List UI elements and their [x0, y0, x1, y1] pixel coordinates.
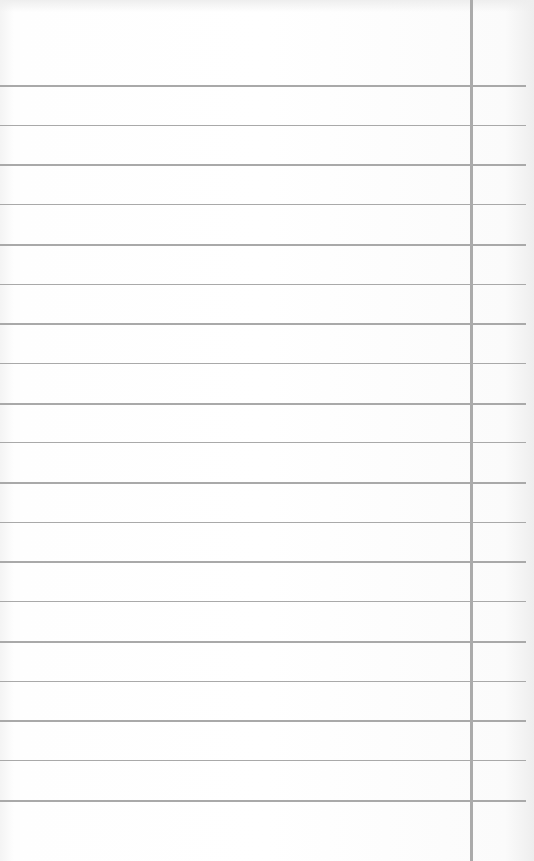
- lined-paper: [0, 0, 534, 861]
- ruled-line: [0, 800, 526, 802]
- ruled-line: [0, 720, 526, 722]
- ruled-line: [0, 601, 526, 602]
- ruled-line: [0, 363, 526, 364]
- ruled-line: [0, 284, 526, 285]
- top-shadow: [0, 0, 534, 12]
- ruled-line: [0, 125, 526, 126]
- ruled-line: [0, 403, 526, 405]
- ruled-line: [0, 522, 526, 523]
- ruled-line: [0, 681, 526, 682]
- margin-line: [470, 0, 473, 861]
- ruled-line: [0, 641, 526, 643]
- ruled-line: [0, 204, 526, 205]
- ruled-line: [0, 323, 526, 325]
- ruled-line: [0, 482, 526, 484]
- ruled-line: [0, 442, 526, 443]
- ruled-line: [0, 760, 526, 761]
- ruled-line: [0, 85, 526, 87]
- ruled-line: [0, 244, 526, 246]
- ruled-line: [0, 561, 526, 563]
- ruled-line: [0, 164, 526, 166]
